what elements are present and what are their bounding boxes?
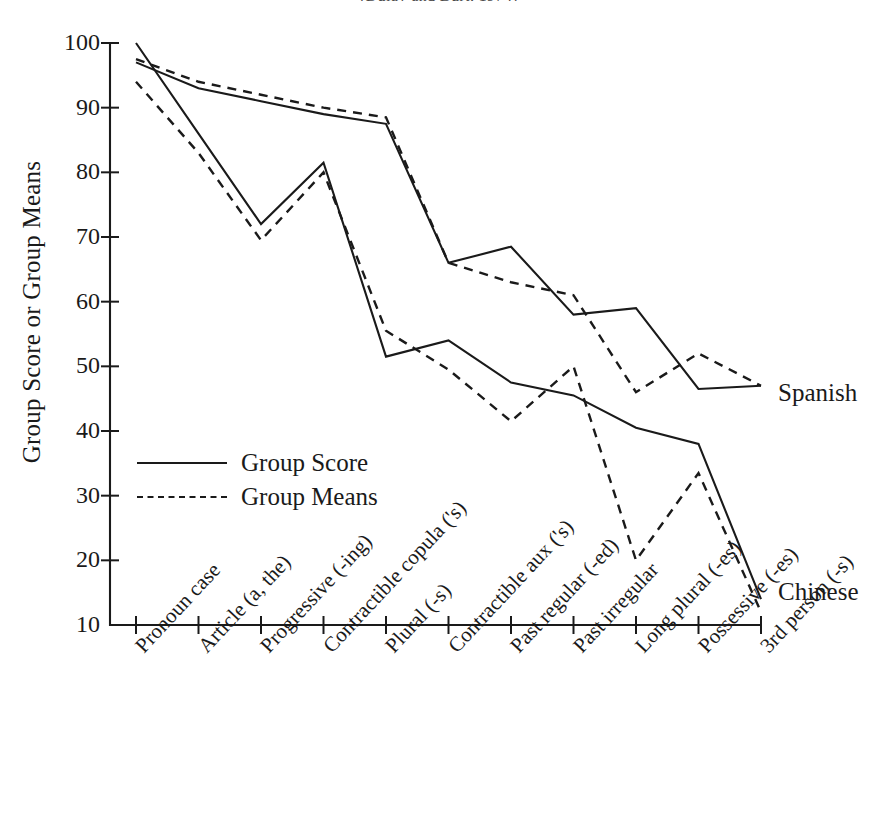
legend-label-group-means: Group Means: [241, 483, 378, 511]
y-tick-label: 70: [40, 224, 100, 248]
legend-entry-group-score: Group Score: [137, 446, 378, 480]
figure-root: (Dulay and Burt, 1974) Group Score or Gr…: [0, 0, 878, 821]
series-annotation-spanish: Spanish: [778, 379, 857, 407]
y-tick-label: 100: [40, 30, 100, 54]
y-tick-label: 90: [40, 95, 100, 119]
legend: Group Score Group Means: [137, 446, 378, 514]
legend-entry-group-means: Group Means: [137, 480, 378, 514]
plot-area: Group Score or Group Means 1020304050607…: [0, 0, 878, 821]
series-annotation-chinese: Chinese: [778, 578, 859, 606]
series-line-spanish-group-means: [136, 59, 761, 392]
legend-swatch-dashed-line-icon: [137, 490, 227, 504]
chart-canvas: [0, 0, 878, 821]
legend-label-group-score: Group Score: [241, 449, 368, 477]
y-tick-label: 30: [40, 483, 100, 507]
y-tick-label: 20: [40, 547, 100, 571]
legend-swatch-solid-line-icon: [137, 456, 227, 470]
y-axis-tick-labels: 102030405060708090100: [38, 0, 100, 660]
y-tick-label: 50: [40, 353, 100, 377]
y-tick-label: 80: [40, 159, 100, 183]
y-tick-label: 40: [40, 418, 100, 442]
y-tick-label: 10: [40, 612, 100, 636]
y-tick-label: 60: [40, 289, 100, 313]
